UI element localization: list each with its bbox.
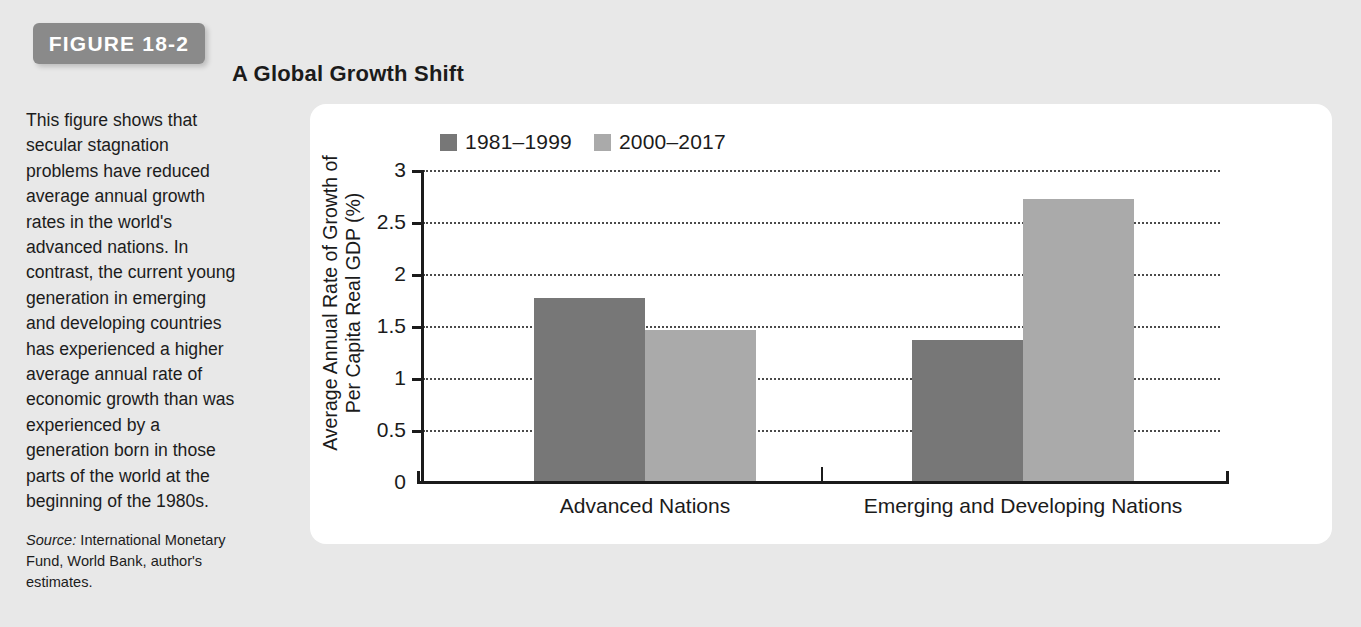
y-axis-tick-label: 3 <box>394 158 406 182</box>
y-axis-tick-label: 0.5 <box>377 418 406 442</box>
page-title: A Global Growth Shift <box>232 61 464 87</box>
legend-swatch-icon-series-2 <box>594 134 611 151</box>
x-axis-left-cap <box>417 471 420 484</box>
legend-label-series-1: 1981–1999 <box>465 130 572 154</box>
y-axis-line <box>421 170 424 484</box>
caption-column: This figure shows that secular stagnatio… <box>26 108 238 593</box>
y-axis-tick-label: 0 <box>394 470 406 494</box>
bar-2-series-2 <box>1023 199 1134 482</box>
x-axis-line <box>417 481 1229 484</box>
figure-number-badge: FIGURE 18-2 <box>33 23 205 64</box>
y-axis-tick-label: 2.5 <box>377 210 406 234</box>
plot-frame: 00.511.522.53 Advanced NationsEmerging a… <box>423 170 1220 482</box>
plot-area: 00.511.522.53 Advanced NationsEmerging a… <box>423 170 1220 482</box>
y-axis-title: Average Annual Rate of Growth of Per Cap… <box>319 103 365 503</box>
legend-swatch-icon-series-1 <box>440 134 457 151</box>
source-note: Source: International Monetary Fund, Wor… <box>26 530 238 593</box>
y-axis-tick-label: 2 <box>394 262 406 286</box>
figure-container: FIGURE 18-2 A Global Growth Shift This f… <box>0 0 1361 627</box>
y-axis-title-line-1: Average Annual Rate of Growth of <box>319 103 342 503</box>
source-label: Source: <box>26 532 76 548</box>
bar-1-series-1 <box>534 298 645 482</box>
legend-item-series-1: 1981–1999 <box>440 130 572 154</box>
y-axis-tick-label: 1.5 <box>377 314 406 338</box>
legend-label-series-2: 2000–2017 <box>619 130 726 154</box>
figure-number-label: FIGURE 18-2 <box>49 32 189 56</box>
legend-item-series-2: 2000–2017 <box>594 130 726 154</box>
figure-caption-text: This figure shows that secular stagnatio… <box>26 108 238 515</box>
bar-1-series-2 <box>645 330 756 482</box>
x-axis-category-label: Emerging and Developing Nations <box>864 494 1183 518</box>
chart-legend: 1981–1999 2000–2017 <box>440 130 726 154</box>
x-axis-category-label: Advanced Nations <box>560 494 730 518</box>
x-axis-right-cap <box>1226 471 1229 484</box>
x-axis-mid-tick <box>821 467 823 481</box>
y-axis-title-line-2: Per Capita Real GDP (%) <box>342 103 365 503</box>
chart-panel: 1981–1999 2000–2017 Average Annual Rate … <box>310 104 1332 544</box>
bar-2-series-1 <box>912 340 1023 482</box>
y-axis-tick-label: 1 <box>394 366 406 390</box>
gridline <box>423 170 1220 172</box>
